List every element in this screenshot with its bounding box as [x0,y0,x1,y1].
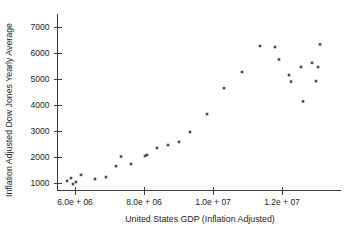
data-point [115,165,118,168]
data-point [206,113,209,116]
plot-canvas: 6.0e + 068.0e + 061.0e + 071.2e + 071000… [0,0,345,235]
data-point [317,66,320,69]
data-point [167,144,170,147]
y-tick-label: 4000 [31,100,50,110]
data-point [80,174,83,177]
y-tick-label: 6000 [31,48,50,58]
data-point [274,46,277,49]
y-tick-label: 3000 [31,126,50,136]
data-point [120,155,123,158]
data-point [156,147,159,150]
data-point [288,74,291,77]
data-points-group [66,43,322,185]
data-point [302,100,305,103]
data-point [75,181,78,184]
data-point [70,177,73,180]
data-point [315,80,318,83]
axes-group [58,14,342,191]
data-point [146,154,149,157]
ticks-group [54,27,283,195]
y-axis-label: Inflation Adjusted Dow Jones Yearly Aver… [4,23,14,197]
y-tick-label: 5000 [31,74,50,84]
x-tick-label: 6.0e + 06 [57,197,93,207]
data-point [241,71,244,74]
data-point [178,141,181,144]
data-point [300,66,303,69]
data-point [278,58,281,61]
data-point [189,131,192,134]
data-point [94,178,97,181]
data-point [319,43,322,46]
data-point [290,80,293,83]
data-point [66,180,69,183]
data-point [259,45,262,48]
y-tick-label: 1000 [31,178,50,188]
data-point [223,87,226,90]
x-tick-label: 1.2e + 07 [264,197,300,207]
data-point [105,176,108,179]
y-tick-label: 7000 [31,22,50,32]
x-tick-label: 8.0e + 06 [126,197,162,207]
data-point [130,163,133,166]
x-axis-label: United States GDP (Inflation Adjusted) [125,214,275,224]
x-tick-label: 1.0e + 07 [195,197,231,207]
data-point [311,62,314,65]
scatter-plot-figure: 6.0e + 068.0e + 061.0e + 071.2e + 071000… [0,0,345,235]
y-tick-label: 2000 [31,152,50,162]
data-point [72,183,75,186]
